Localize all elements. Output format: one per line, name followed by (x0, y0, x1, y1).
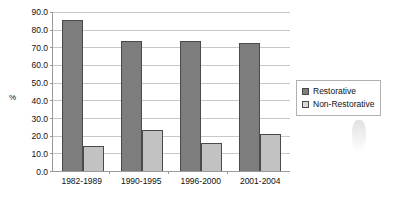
bar-group (233, 12, 288, 171)
scan-smudge-artifact (352, 120, 366, 152)
legend-swatch-icon (302, 101, 309, 108)
bar-non-restorative (83, 146, 104, 171)
x-axis-tick-labels: 1982-19891990-19951996-20002001-2004 (52, 176, 290, 186)
legend-swatch-icon (302, 88, 309, 95)
legend-entry: Non-Restorative (302, 98, 374, 111)
y-tick-label: 10.0 (14, 150, 48, 159)
bar-group (115, 12, 170, 171)
bar-non-restorative (201, 143, 222, 171)
bar-chart-figure: % 0.010.020.030.040.050.060.070.080.090.… (0, 0, 404, 208)
y-tick-label: 50.0 (14, 79, 48, 88)
bar-restorative (239, 43, 260, 171)
chart-legend: RestorativeNon-Restorative (296, 80, 381, 116)
y-tick-label: 80.0 (14, 26, 48, 35)
y-axis-tickmark (50, 171, 53, 172)
x-tick-label: 1996-2000 (173, 176, 228, 186)
y-axis-tick-labels: 0.010.020.030.040.050.060.070.080.090.0 (14, 12, 48, 172)
legend-label: Non-Restorative (313, 100, 374, 109)
legend-label: Restorative (313, 87, 356, 96)
bar-group (174, 12, 229, 171)
x-tick-label: 1982-1989 (54, 176, 109, 186)
y-tick-label: 30.0 (14, 114, 48, 123)
bar-non-restorative (260, 134, 281, 171)
x-tick-label: 1990-1995 (114, 176, 169, 186)
legend-entry: Restorative (302, 85, 374, 98)
bar-restorative (121, 41, 142, 171)
y-tick-label: 40.0 (14, 97, 48, 106)
bar-non-restorative (142, 130, 163, 171)
x-axis-tickmark (227, 171, 228, 174)
bar-restorative (180, 41, 201, 171)
bar-restorative (62, 20, 83, 171)
y-tick-label: 70.0 (14, 43, 48, 52)
bars-layer (53, 12, 290, 171)
y-tick-label: 0.0 (14, 168, 48, 177)
plot-area (52, 12, 290, 172)
y-tick-label: 90.0 (14, 8, 48, 17)
y-tick-label: 60.0 (14, 61, 48, 70)
x-axis-tickmark (109, 171, 110, 174)
bar-group (55, 12, 110, 171)
x-tick-label: 2001-2004 (233, 176, 288, 186)
x-axis-tickmark (168, 171, 169, 174)
y-tick-label: 20.0 (14, 132, 48, 141)
